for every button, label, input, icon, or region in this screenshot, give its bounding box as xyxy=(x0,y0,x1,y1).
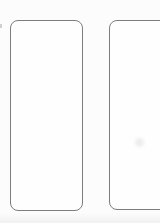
bottom-shade xyxy=(0,213,160,223)
smudge-artifact xyxy=(135,138,144,147)
page-background xyxy=(0,0,160,223)
card-outline-right xyxy=(109,20,160,210)
edge-fleck-artifact xyxy=(0,24,2,28)
card-outline-left xyxy=(10,20,83,211)
